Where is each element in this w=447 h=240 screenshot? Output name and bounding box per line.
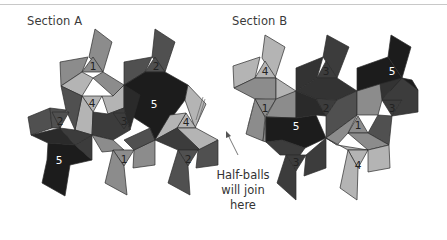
face-number-label: 1	[355, 119, 362, 131]
face-number-label: 4	[355, 159, 362, 171]
face-number-label: 3	[323, 65, 330, 77]
face-number-label: 4	[262, 65, 269, 77]
face-number-label: 2	[153, 60, 160, 72]
callout-line-2: will join here	[208, 183, 278, 211]
callout-line-1: Half-balls	[208, 168, 278, 183]
face-number-label: 1	[262, 102, 269, 114]
face-number-label: 4	[89, 97, 96, 109]
face-number-label: 1	[90, 60, 97, 72]
face-number-label: 1	[121, 153, 128, 165]
face	[368, 145, 390, 172]
half-balls-callout: Half-balls will join here	[208, 168, 278, 211]
face-number-label: 5	[293, 120, 300, 132]
face-number-label: 3	[121, 115, 128, 127]
section-a-net	[28, 29, 218, 196]
face-number-label: 5	[151, 98, 158, 110]
face-number-label: 5	[389, 65, 396, 77]
face-number-label: 3	[293, 156, 300, 168]
face-number-label: 5	[56, 154, 63, 166]
face-number-label: 4	[183, 116, 190, 128]
callout-arrow	[226, 131, 238, 155]
face-number-label: 3	[389, 102, 396, 114]
face-number-label: 2	[57, 115, 64, 127]
face-number-label: 2	[185, 153, 192, 165]
face-number-label: 2	[323, 102, 330, 114]
